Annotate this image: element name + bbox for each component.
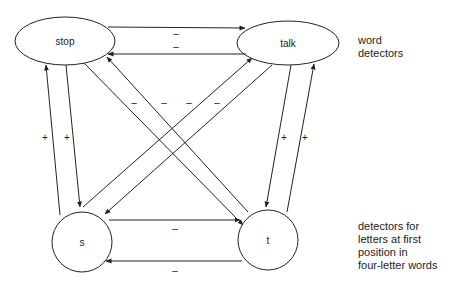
edge-t-to-s-sign: – — [172, 265, 178, 276]
edge-s-to-stop-sign: + — [42, 132, 48, 143]
edge-stop-to-s-sign: + — [64, 132, 70, 143]
node-stop: stop — [15, 17, 115, 65]
node-t: t — [238, 210, 298, 270]
word-detectors-line-2: detectors — [358, 47, 403, 60]
node-talk-label: talk — [280, 38, 297, 49]
edge-stop-to-t-sign: – — [131, 97, 137, 108]
node-s: s — [52, 212, 112, 272]
letter-detectors-line-3: position in — [358, 246, 437, 259]
node-t-label: t — [267, 235, 270, 246]
edge-stop-to-talk-sign: – — [173, 28, 179, 39]
edge-t-to-stop-sign: – — [161, 97, 167, 108]
edge-s-to-talk — [83, 58, 252, 207]
edge-talk-to-s — [105, 65, 272, 214]
node-s-label: s — [80, 237, 85, 248]
edge-talk-to-t-sign: + — [281, 132, 287, 143]
letter-detectors-label: detectors for letters at first position … — [358, 220, 437, 272]
edge-talk-to-t — [266, 65, 291, 207]
word-detectors-label: word detectors — [358, 34, 403, 60]
edge-s-to-t-sign: – — [172, 223, 178, 234]
edge-s-to-talk-sign: – — [186, 97, 192, 108]
edge-t-to-talk — [287, 64, 314, 212]
letter-detectors-line-4: four-letter words — [358, 259, 437, 272]
letter-detectors-line-1: detectors for — [358, 220, 437, 233]
edge-talk-to-s-sign: – — [214, 97, 220, 108]
edge-talk-to-stop-sign: – — [173, 41, 179, 52]
edge-s-to-stop — [46, 65, 60, 215]
letter-detectors-line-2: letters at first — [358, 233, 437, 246]
node-stop-label: stop — [56, 36, 75, 47]
edge-t-to-talk-sign: + — [302, 132, 308, 143]
word-detectors-line-1: word — [358, 34, 403, 47]
